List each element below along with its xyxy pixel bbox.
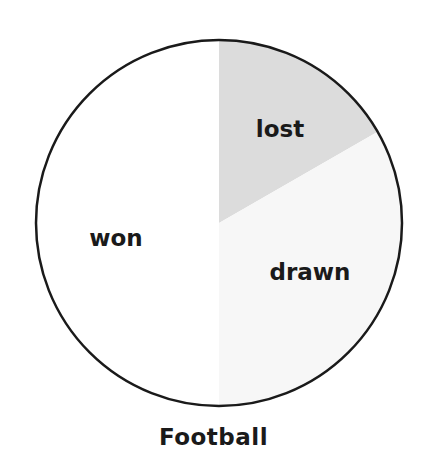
slice-label-won: won	[89, 225, 142, 251]
pie-slices	[36, 40, 402, 406]
slice-label-drawn: drawn	[270, 259, 351, 285]
pie-chart: lost drawn won	[0, 0, 427, 473]
chart-title: Football	[0, 424, 427, 450]
slice-label-lost: lost	[256, 116, 304, 142]
pie-slice-won	[36, 40, 219, 406]
